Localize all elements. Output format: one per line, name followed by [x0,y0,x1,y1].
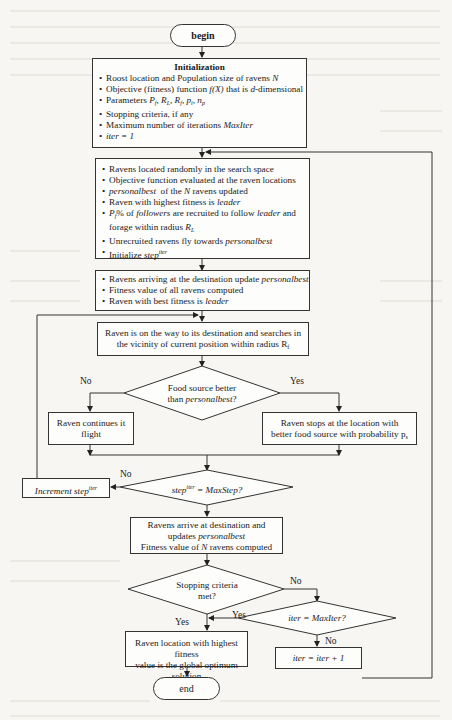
food-decision-text: Food source betterthan personalbest? [150,383,254,405]
init-item: Parameters Pf, RL, Rf, pi, np [99,95,306,109]
iter-decision-text: iter = MaxIter? [272,613,362,624]
setup-item: Objective function evaluated at the rave… [102,175,309,186]
continue-flight-box: Raven continues itflight [48,412,134,445]
setup-item: Initialize stepiter [102,247,309,261]
arrival-box: Ravens arriving at the destination updat… [95,270,310,311]
arrival-item: Ravens arriving at the destination updat… [102,274,309,285]
initialization-title: Initialization [93,62,306,73]
increment-step-box: Increment stepiter [22,478,110,498]
stop-yes-label: Yes [175,617,189,627]
result-box: Raven location with highest fitnessvalue… [125,631,248,667]
food-yes-label: Yes [290,376,304,386]
increment-step-text: Increment stepiter [35,486,97,496]
begin-label: begin [191,30,214,41]
step-decision-text: stepiter = MaxStep? [160,482,254,496]
begin-terminal: begin [170,24,236,47]
initialization-box: Initialization Roost location and Popula… [92,58,307,148]
init-item: Roost location and Population size of ra… [99,73,306,84]
init-item: Maximum number of iterations MaxIter [99,120,306,131]
setup-box: Ravens located randomly in the search sp… [95,158,310,259]
continue-flight-text: Raven continues itflight [57,418,125,439]
init-item: iter = 1 [99,131,306,142]
setup-item: Pf% of followers are recruited to follow… [102,208,309,236]
setup-item: Raven with highest fitness is leader [102,197,309,208]
iter-increment-box: iter = iter + 1 [275,647,362,669]
iter-increment-text: iter = iter + 1 [293,653,345,663]
init-item: Objective (fitness) function f(X) that i… [99,84,306,95]
arrival-item: Fitness value of all ravens computed [102,285,309,296]
search-box: Raven is on the way to its destination a… [97,322,309,356]
arrive-update-box: Ravens arrive at destination andupdates … [130,517,283,554]
setup-item: personalbest of the N ravens updated [102,186,309,197]
end-terminal: end [153,677,220,700]
end-label: end [179,683,193,694]
arrival-item: Raven with best fitness is leader [102,296,309,307]
stop-decision-text: Stopping criteriamet? [160,580,254,602]
init-item: Stopping criteria, if any [99,109,306,120]
stop-location-box: Raven stops at the location withbetter f… [262,412,417,445]
stop-location-text: Raven stops at the location withbetter f… [271,418,408,439]
setup-item: Unrecruited ravens fly towards personalb… [102,236,309,247]
iter-no-label: No [325,636,337,646]
setup-item: Ravens located randomly in the search sp… [102,164,309,175]
search-text: Raven is on the way to its destination a… [105,328,301,349]
food-no-label: No [80,376,92,386]
stop-no-label: No [290,576,302,586]
arrive-update-text: Ravens arrive at destination andupdates … [141,520,272,552]
step-no-label: No [120,469,132,479]
iter-yes-label: Yes [232,610,246,620]
